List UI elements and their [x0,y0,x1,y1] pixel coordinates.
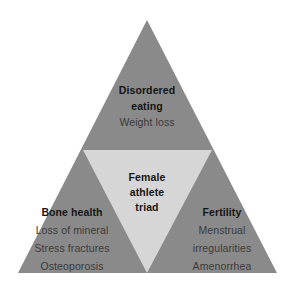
fertility-item-3: Amenorrhea [166,257,278,275]
disordered-eating-heading-line-1: Disordered [77,82,217,98]
label-layer: Disordered eating Weight loss Female ath… [0,0,293,287]
corner-label-disordered-eating: Disordered eating Weight loss [77,82,217,130]
fertility-heading: Fertility [166,203,278,221]
fertility-item-1: Menstrual [166,221,278,239]
bone-health-item-3: Osteoporosis [10,257,134,275]
bone-health-item-1: Loss of mineral [10,221,134,239]
center-line-2: athlete [97,185,197,200]
bone-health-heading: Bone health [10,203,134,221]
corner-label-bone-health: Bone health Loss of mineral Stress fract… [10,203,134,275]
disordered-eating-heading-line-2: eating [77,98,217,114]
center-line-1: Female [97,170,197,185]
female-athlete-triad-diagram: Disordered eating Weight loss Female ath… [0,0,293,287]
bone-health-item-2: Stress fractures [10,239,134,257]
corner-label-fertility: Fertility Menstrual irregularities Ameno… [166,203,278,275]
disordered-eating-item-1: Weight loss [77,114,217,130]
fertility-item-2: irregularities [166,239,278,257]
